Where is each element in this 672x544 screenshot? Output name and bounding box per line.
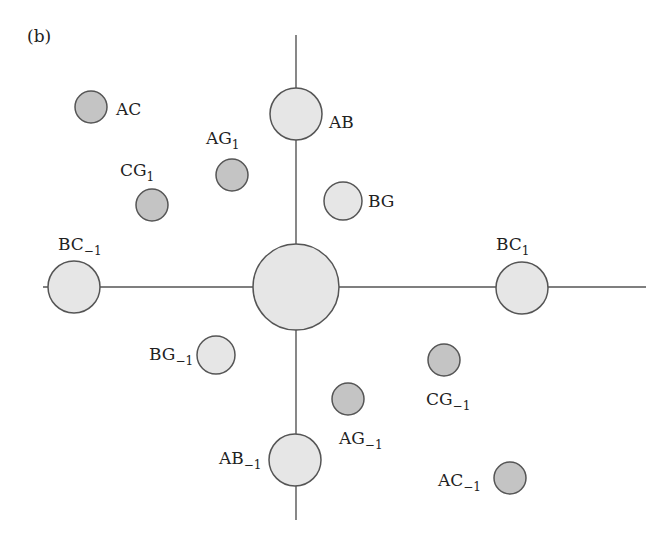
node-label-bc--1: BC−1	[58, 234, 102, 258]
node-circle-center	[253, 244, 339, 330]
node-label-cg--1: CG−1	[426, 389, 470, 413]
node-label-bg: BG	[368, 191, 394, 211]
node-circle-bg	[324, 182, 362, 220]
node-label-ag-1: AG1	[205, 128, 240, 152]
node-group: ABAB−1BC−1BC1BGBG−1ACAG1CG1CG−1AG−1AC−1	[48, 88, 548, 494]
node-label-ab--1: AB−1	[218, 448, 261, 472]
node-circle-ag--1	[332, 383, 364, 415]
node-circle-bc--1	[48, 261, 100, 313]
node-label-bc-1: BC1	[496, 234, 529, 258]
node-label-ab: AB	[328, 112, 354, 132]
panel-label: (b)	[27, 26, 51, 46]
node-circle-ag-1	[216, 159, 248, 191]
node-circle-ab--1	[269, 434, 321, 486]
node-label-bg--1: BG−1	[149, 344, 193, 368]
node-label-cg-1: CG1	[120, 160, 154, 184]
node-circle-bc-1	[496, 262, 548, 314]
node-label-ac--1: AC−1	[437, 470, 481, 494]
node-circle-ac	[75, 91, 107, 123]
node-circle-cg--1	[428, 344, 460, 376]
node-label-ag--1: AG−1	[338, 428, 383, 452]
diagram-canvas: (b) ABAB−1BC−1BC1BGBG−1ACAG1CG1CG−1AG−1A…	[0, 0, 672, 544]
node-circle-bg--1	[197, 336, 235, 374]
node-circle-ac--1	[494, 462, 526, 494]
node-label-ac: AC	[115, 99, 141, 119]
node-circle-ab	[270, 88, 322, 140]
node-circle-cg-1	[136, 189, 168, 221]
